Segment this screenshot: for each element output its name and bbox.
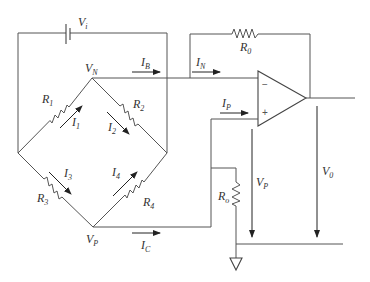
label-r0: R0 [239,40,251,56]
label-vp-out: VP [256,175,268,191]
label-ic: IC [140,238,151,254]
label-v0: V0 [322,164,333,180]
r3-branch [18,153,93,227]
ro-branch [211,168,240,258]
label-ib: IB [140,55,150,71]
label-r4: R4 [142,195,154,211]
label-vn: VN [85,61,98,77]
label-i2: I2 [107,120,116,136]
r1-branch [18,78,92,153]
ground-icon [230,258,242,270]
label-r2: R2 [132,97,144,113]
r2-branch [92,78,167,153]
label-i3: I3 [63,166,72,182]
label-ip: IP [221,96,231,112]
feedback-network: R0 [190,29,310,98]
label-vi: Vi [78,15,88,31]
bridge: R1 R2 R3 R4 I1 I2 I3 I4 VN VP [18,61,167,248]
plus-sign: + [262,107,268,118]
inverting-input-path: IB IN [92,55,258,78]
ro-ground-branch: Ro [211,168,343,270]
source-loop-wires [18,33,167,153]
r4-branch [93,153,167,227]
wire-top-right [70,33,167,153]
label-vp-node: VP [86,232,98,248]
feedback-wire [190,29,310,98]
minus-sign: − [262,79,268,90]
voltage-arrows: VP V0 [252,106,333,237]
label-r1: R1 [41,92,53,108]
battery-vi: Vi [66,15,88,44]
label-i4: I4 [111,165,120,181]
op-amp: − + [258,71,355,126]
label-ro: Ro [217,189,229,205]
label-i1: I1 [71,115,80,131]
circuit-diagram: Vi R1 R2 R3 R4 I1 I2 I3 I4 VN VP IB IN [0,0,370,282]
label-in: IN [195,55,206,71]
label-r3: R3 [36,191,48,207]
